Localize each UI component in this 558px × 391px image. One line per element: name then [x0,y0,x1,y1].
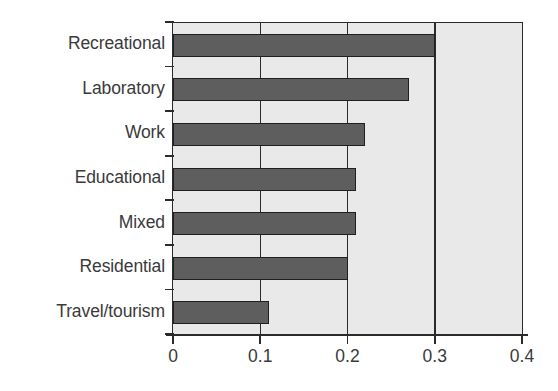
bar [173,168,356,191]
gridline [434,23,436,335]
x-axis-tick-label: 0.3 [423,348,447,366]
y-axis-tick-label: Residential [0,258,165,276]
y-axis-tick [165,110,174,112]
x-axis-tick [172,335,174,344]
x-axis-tick-label: 0.2 [335,348,359,366]
bar [173,123,365,146]
y-axis-tick-label: Recreational [0,35,165,53]
bar [173,257,348,280]
y-axis-tick [165,199,174,201]
bar [173,301,269,324]
y-axis-tick [165,244,174,246]
y-axis-tick [165,155,174,157]
bar [173,78,409,101]
plot-area [173,22,523,335]
y-axis-tick [165,289,174,291]
x-axis-tick-label: 0.1 [248,348,272,366]
x-axis-tick [259,335,261,344]
bar [173,34,435,57]
y-axis-tick-label: Travel/tourism [0,303,165,321]
x-axis-tick [521,335,523,344]
x-axis-tick [347,335,349,344]
x-axis-tick-label: 0.4 [510,348,534,366]
y-axis-tick-label: Educational [0,169,165,187]
y-axis-tick [165,21,174,23]
y-axis-tick [165,66,174,68]
x-axis-tick [434,335,436,344]
y-axis-tick-label: Laboratory [0,80,165,98]
y-axis-tick-label: Mixed [0,214,165,232]
x-axis-tick-label: 0 [168,348,178,366]
y-axis-labels: RecreationalLaboratoryWorkEducationalMix… [0,22,165,334]
bar-chart: RecreationalLaboratoryWorkEducationalMix… [0,0,558,391]
y-axis-tick-label: Work [0,124,165,142]
bar [173,212,356,235]
y-axis-tick [165,333,174,335]
